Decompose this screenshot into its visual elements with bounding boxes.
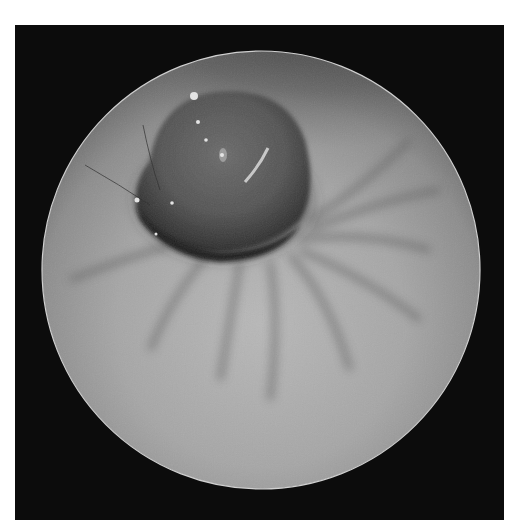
endoscope-view	[0, 0, 522, 530]
scope-field	[40, 0, 510, 493]
